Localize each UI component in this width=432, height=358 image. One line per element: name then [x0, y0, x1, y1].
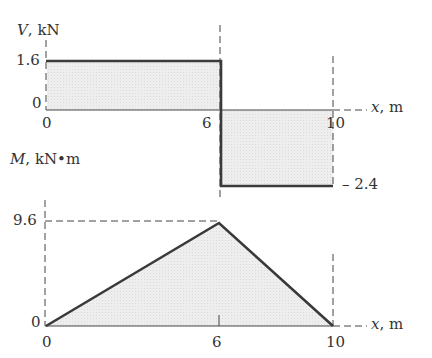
- shear-diagram: [46, 25, 367, 200]
- shear-neg-value: – 2.4: [342, 177, 378, 192]
- shear-y-unit: , kN: [28, 21, 60, 39]
- shear-positive-area: [47, 61, 221, 110]
- shear-x-tick-6: 6: [202, 116, 212, 131]
- moment-x-tick-10: 10: [326, 335, 345, 350]
- moment-diagram: [45, 200, 367, 326]
- shear-y-var: V: [17, 21, 28, 39]
- shear-y-label: V, kN: [17, 23, 60, 38]
- moment-y-unit: , kN•m: [25, 150, 80, 168]
- shear-tick-zero: 0: [32, 96, 42, 111]
- moment-x-tick-6: 6: [212, 335, 222, 350]
- moment-y-var: M: [10, 150, 25, 168]
- moment-x-unit: , m: [379, 315, 403, 333]
- moment-y-label: M, kN•m: [10, 152, 80, 167]
- shear-x-label: x, m: [371, 100, 403, 115]
- shear-x-tick-10: 10: [326, 116, 345, 131]
- shear-tick-1-6: 1.6: [16, 53, 40, 68]
- moment-x-tick-0: 0: [42, 335, 52, 350]
- shear-negative-area: [221, 110, 333, 186]
- shear-x-tick-0: 0: [42, 116, 52, 131]
- moment-tick-zero: 0: [31, 315, 41, 330]
- moment-area: [46, 223, 333, 326]
- moment-tick-9-6: 9.6: [13, 213, 37, 228]
- shear-x-unit: , m: [379, 98, 403, 116]
- moment-x-label: x, m: [371, 317, 403, 332]
